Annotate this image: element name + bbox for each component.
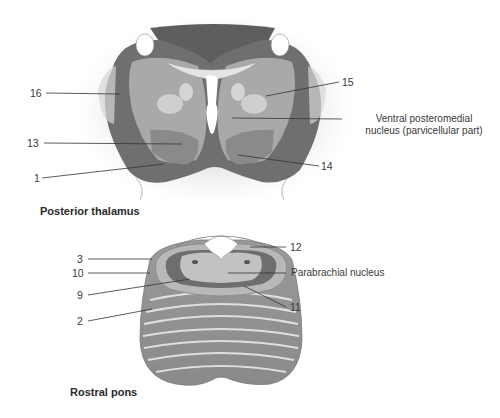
label-16: 16: [30, 87, 42, 99]
vpm-label-line1: Ventral posteromedial: [349, 113, 499, 125]
caption-posterior-thalamus: Posterior thalamus: [40, 205, 140, 217]
vpm-label-line2: nucleus (parvicellular part): [349, 125, 499, 137]
pons-section: [140, 236, 302, 385]
label-12: 12: [290, 241, 302, 253]
label-1: 1: [34, 172, 40, 184]
label-9: 9: [77, 289, 83, 301]
label-15: 15: [342, 76, 354, 88]
label-14: 14: [321, 160, 333, 172]
label-13: 13: [27, 137, 39, 149]
label-3: 3: [77, 253, 83, 265]
label-10: 10: [72, 267, 84, 279]
label-parabrachial-nucleus: Parabrachial nucleus: [291, 267, 384, 279]
caption-rostral-pons: Rostral pons: [70, 386, 137, 398]
anatomy-figure: 16 13 1 15 14 Ventral posteromedial nucl…: [0, 0, 500, 418]
thalamus-section: [75, 15, 355, 205]
label-2: 2: [77, 315, 83, 327]
label-11: 11: [290, 301, 301, 313]
label-ventral-posteromedial-nucleus: Ventral posteromedial nucleus (parvicell…: [349, 113, 499, 137]
